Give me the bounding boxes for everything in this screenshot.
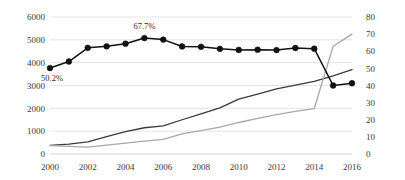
left-axis-tick-label: 2000: [27, 104, 46, 114]
data-point-marker: [104, 43, 110, 49]
data-point-marker: [85, 45, 91, 51]
data-point-marker: [349, 80, 355, 86]
x-axis-tick-label: 2014: [305, 162, 324, 172]
chart-container: 0100020003000400050006000 01020304050607…: [0, 0, 405, 180]
gridlines-group: [50, 17, 352, 154]
left-axis-tick-labels: 0100020003000400050006000: [27, 12, 46, 159]
x-axis-tick-label: 2006: [154, 162, 173, 172]
x-axis-tick-label: 2000: [41, 162, 60, 172]
x-axis-tick-label: 2008: [192, 162, 211, 172]
x-axis-tick-label: 2016: [343, 162, 362, 172]
right-axis-tick-label: 40: [366, 81, 376, 91]
series-layer: [50, 34, 352, 147]
right-axis-tick-label: 0: [366, 149, 371, 159]
series-line-gray-line: [50, 34, 352, 147]
markers-layer: [47, 35, 355, 88]
data-point-marker: [274, 47, 280, 53]
x-axis-tick-label: 2002: [79, 162, 97, 172]
right-axis-tick-labels: 01020304050607080: [366, 12, 376, 159]
left-axis-tick-label: 6000: [27, 12, 46, 22]
x-axis-tick-label: 2010: [230, 162, 249, 172]
data-point-marker: [123, 41, 129, 47]
data-point-marker: [292, 45, 298, 51]
left-axis-tick-label: 5000: [27, 35, 46, 45]
data-point-marker: [160, 37, 166, 43]
x-axis-tick-label: 2012: [268, 162, 286, 172]
left-axis-tick-label: 4000: [27, 58, 46, 68]
right-axis-tick-label: 30: [366, 98, 376, 108]
right-axis-tick-label: 10: [366, 132, 376, 142]
right-axis-tick-label: 50: [366, 64, 376, 74]
right-axis-tick-label: 60: [366, 46, 376, 56]
data-annotation: 67.7%: [133, 21, 155, 31]
data-annotation: 50.2%: [41, 73, 63, 83]
left-axis-tick-label: 1000: [27, 126, 46, 136]
x-axis-tick-label: 2004: [117, 162, 136, 172]
data-point-marker: [198, 44, 204, 50]
x-axis-tick-labels: 200020022004200620082010201220142016: [41, 162, 362, 172]
data-point-marker: [47, 65, 53, 71]
data-point-marker: [179, 44, 185, 50]
line-chart: 0100020003000400050006000 01020304050607…: [0, 0, 405, 180]
data-point-marker: [217, 46, 223, 52]
annotations-layer: 50.2%67.7%: [41, 21, 155, 83]
right-axis-tick-label: 20: [366, 115, 376, 125]
data-point-marker: [330, 83, 336, 89]
data-point-marker: [66, 59, 72, 65]
data-point-marker: [236, 47, 242, 53]
data-point-marker: [255, 47, 261, 53]
data-point-marker: [311, 46, 317, 52]
data-point-marker: [141, 35, 147, 41]
right-axis-tick-label: 80: [366, 12, 376, 22]
left-axis-tick-label: 0: [41, 149, 46, 159]
right-axis-tick-label: 70: [366, 29, 376, 39]
series-line-dark-line: [50, 70, 352, 146]
